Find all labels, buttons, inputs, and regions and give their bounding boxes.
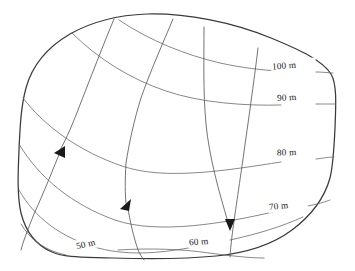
contour-label-group: 100 m 90 m 80 m 70 m 60 m 50 m xyxy=(74,57,316,252)
contour-line-80-right xyxy=(316,157,334,159)
contour-line-50 xyxy=(21,224,66,255)
flow-line-2-lower xyxy=(128,208,144,260)
flow-arrow-1 xyxy=(54,146,65,158)
contour-label-100-text: 100 m xyxy=(272,60,297,72)
contour-label-50: 50 m xyxy=(74,232,116,253)
contour-label-80-text: 80 m xyxy=(277,147,297,158)
contour-line-100 xyxy=(119,20,278,71)
flow-line-1-lower xyxy=(21,152,60,250)
contour-map-figure: 100 m 90 m 80 m 70 m 60 m 50 m xyxy=(0,0,355,271)
contour-label-70-text: 70 m xyxy=(268,200,288,212)
flow-line-2 xyxy=(125,19,173,203)
contour-label-60: 60 m xyxy=(188,234,229,249)
contour-label-50-text: 50 m xyxy=(75,237,96,251)
contour-label-80: 80 m xyxy=(276,145,316,158)
contour-line-90 xyxy=(72,33,281,105)
contour-line-60-right xyxy=(230,217,303,240)
contour-label-90: 90 m xyxy=(276,90,317,104)
flow-line-4 xyxy=(230,48,258,257)
flow-line-1 xyxy=(60,19,114,150)
flow-line-3 xyxy=(204,27,228,222)
contour-label-60-text: 60 m xyxy=(189,236,209,247)
contour-label-70: 70 m xyxy=(267,197,308,213)
contour-label-90-text: 90 m xyxy=(277,92,297,103)
contour-label-100: 100 m xyxy=(271,57,317,72)
area-boundary xyxy=(18,14,336,259)
contour-map-svg: 100 m 90 m 80 m 70 m 60 m 50 m xyxy=(0,0,355,271)
